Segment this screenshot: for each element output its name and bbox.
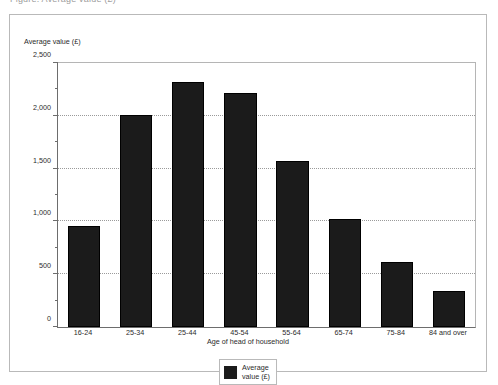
x-axis-tick-label: 84 and over: [422, 328, 474, 337]
bar-25-34[interactable]: [120, 115, 152, 327]
x-axis-tick-label: 25-34: [109, 328, 161, 337]
bar-55-64[interactable]: [276, 161, 308, 327]
bar-slot: [319, 63, 371, 327]
x-axis-tick-label: 25-44: [161, 328, 213, 337]
bar-65-74[interactable]: [329, 219, 361, 327]
x-axis-tick-label: 55-64: [266, 328, 318, 337]
chart-legend: Average value (£): [219, 359, 277, 385]
bar-slot: [423, 63, 475, 327]
bar-84 and over[interactable]: [433, 291, 465, 327]
x-axis-tick-labels: 16-2425-3425-4445-5455-6465-7475-8484 an…: [57, 328, 474, 337]
bar-slot: [162, 63, 214, 327]
bar-slot: [214, 63, 266, 327]
bar-series: [58, 63, 475, 327]
y-axis-tick-label: 500: [39, 261, 51, 270]
bar-75-84[interactable]: [381, 262, 413, 327]
chart-figure-frame: Average value (£) 05001,0001,5002,0002,5…: [9, 14, 487, 372]
y-axis-tick-label: 1,000: [33, 208, 51, 217]
x-axis-tick-label: 75-84: [370, 328, 422, 337]
y-axis-tick-label: 1,500: [33, 155, 51, 164]
bar-16-24[interactable]: [68, 226, 100, 327]
top-caption: Figure: Average value (£): [10, 0, 116, 6]
bar-slot: [58, 63, 110, 327]
y-axis-tick-label: 2,500: [33, 50, 51, 59]
legend-label: Average value (£): [242, 363, 270, 381]
y-axis-tick-label: 2,000: [33, 102, 51, 111]
y-axis-title: Average value (£): [24, 37, 81, 46]
y-axis-tick-label: 0: [47, 314, 51, 323]
x-axis-title: Age of head of household: [10, 337, 486, 346]
x-axis-tick-label: 16-24: [57, 328, 109, 337]
bar-slot: [371, 63, 423, 327]
plot-area: 05001,0001,5002,0002,500: [57, 62, 476, 328]
x-axis-tick-label: 45-54: [213, 328, 265, 337]
bar-slot: [267, 63, 319, 327]
legend-swatch-icon: [224, 366, 237, 379]
bar-slot: [110, 63, 162, 327]
bar-45-54[interactable]: [224, 93, 256, 327]
x-axis-tick-label: 65-74: [318, 328, 370, 337]
bar-25-44[interactable]: [172, 82, 204, 327]
